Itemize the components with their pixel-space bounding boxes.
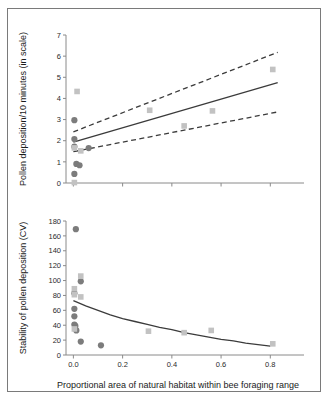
data-point-circle: [71, 136, 77, 142]
data-point-circle: [76, 162, 82, 168]
data-point-circle: [71, 171, 77, 177]
x-tick-label: 0.2: [117, 360, 127, 369]
pollen-deposition-chart: 01234567Pollen deposition/10 minutes (in…: [8, 13, 320, 201]
y-tick-label: 120: [48, 261, 61, 270]
confidence-band-line: [73, 112, 277, 152]
y-tick-label: 5: [57, 73, 61, 82]
y-tick-label: 7: [57, 31, 61, 40]
data-point-circle: [71, 313, 77, 319]
x-tick-label: 0.0: [68, 360, 78, 369]
data-point-square: [78, 273, 84, 279]
y-tick-label: 1: [57, 158, 61, 167]
y-axis-title: Stability of pollen deposition (CV): [18, 222, 28, 355]
data-point-circle: [78, 339, 84, 345]
y-tick-label: 4: [57, 94, 61, 103]
y-tick-label: 20: [53, 336, 61, 345]
x-axis-title: Proportional area of natural habitat wit…: [57, 380, 299, 390]
x-tick-label: 0.8: [265, 360, 275, 369]
data-point-circle: [78, 278, 84, 284]
y-tick-label: 160: [48, 232, 61, 241]
y-tick-label: 6: [57, 52, 61, 61]
y-tick-label: 0: [57, 179, 61, 188]
chart-panel-stability-cv: 0204060801001201401601800.00.20.40.60.8S…: [8, 199, 320, 391]
y-tick-label: 180: [48, 217, 61, 226]
y-tick-label: 2: [57, 136, 61, 145]
data-point-square: [72, 286, 78, 292]
y-tick-label: 3: [57, 115, 61, 124]
y-tick-label: 140: [48, 246, 61, 255]
y-tick-label: 0: [57, 351, 61, 360]
figure-frame: 01234567Pollen deposition/10 minutes (in…: [7, 8, 321, 392]
data-point-square: [270, 341, 276, 347]
data-point-square: [72, 145, 78, 151]
data-point-square: [181, 330, 187, 336]
data-point-square: [74, 89, 80, 95]
data-point-square: [72, 292, 78, 298]
data-point-square: [78, 148, 84, 154]
y-tick-label: 80: [53, 291, 61, 300]
chart-panel-pollen-deposition: 01234567Pollen deposition/10 minutes (in…: [8, 13, 320, 201]
data-point-circle: [73, 226, 79, 232]
data-point-square: [72, 180, 78, 186]
data-point-square: [208, 328, 214, 334]
y-axis-title: Pollen deposition/10 minutes (in scale): [18, 32, 28, 186]
regression-fit-line: [73, 301, 270, 346]
stability-cv-chart: 0204060801001201401601800.00.20.40.60.8S…: [8, 199, 320, 391]
data-point-square: [270, 67, 276, 73]
y-tick-label: 60: [53, 306, 61, 315]
y-tick-label: 100: [48, 276, 61, 285]
data-point-square: [147, 107, 153, 113]
data-point-circle: [71, 117, 77, 123]
data-point-square: [146, 328, 152, 334]
data-point-square: [78, 294, 84, 300]
x-tick-label: 0.6: [216, 360, 226, 369]
data-point-square: [72, 326, 78, 332]
x-tick-label: 0.4: [167, 360, 177, 369]
data-point-circle: [71, 306, 77, 312]
y-tick-label: 40: [53, 321, 61, 330]
data-point-circle: [98, 342, 104, 348]
data-point-square: [181, 123, 187, 129]
data-point-square: [210, 108, 216, 114]
data-point-circle: [86, 145, 92, 151]
